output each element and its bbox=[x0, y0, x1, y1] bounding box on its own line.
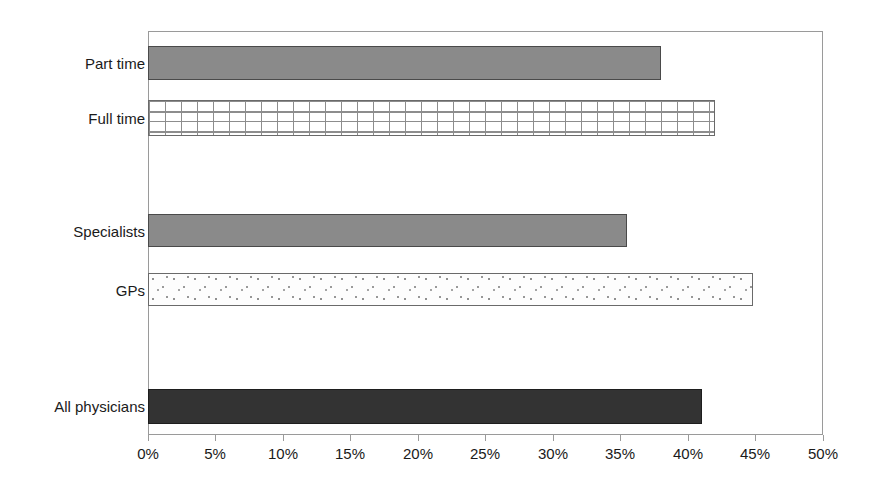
tick-mark-30 bbox=[553, 435, 554, 441]
tick-label-30: 30% bbox=[538, 446, 568, 461]
bar-full-time bbox=[148, 100, 715, 136]
bar-all-physicians bbox=[148, 389, 702, 424]
tick-mark-50 bbox=[823, 435, 824, 441]
tick-label-10: 10% bbox=[268, 446, 298, 461]
tick-label-25: 25% bbox=[470, 446, 500, 461]
tick-mark-35 bbox=[620, 435, 621, 441]
bar-specialists bbox=[148, 214, 627, 247]
tick-mark-10 bbox=[283, 435, 284, 441]
tick-mark-5 bbox=[215, 435, 216, 441]
bar-gps bbox=[148, 273, 753, 306]
category-label-gps: GPs bbox=[116, 283, 145, 298]
tick-mark-45 bbox=[755, 435, 756, 441]
tick-label-45: 45% bbox=[740, 446, 770, 461]
tick-label-5: 5% bbox=[204, 446, 226, 461]
tick-mark-0 bbox=[148, 435, 149, 441]
tick-label-50: 50% bbox=[808, 446, 838, 461]
tick-label-35: 35% bbox=[605, 446, 635, 461]
category-label-all-physicians: All physicians bbox=[54, 399, 145, 414]
tick-mark-15 bbox=[350, 435, 351, 441]
tick-mark-20 bbox=[418, 435, 419, 441]
bar-chart: Part time Full time Specialists GPs All … bbox=[0, 0, 880, 499]
category-label-part-time: Part time bbox=[85, 56, 145, 71]
tick-label-0: 0% bbox=[137, 446, 159, 461]
bar-part-time bbox=[148, 46, 661, 80]
tick-label-15: 15% bbox=[335, 446, 365, 461]
tick-mark-40 bbox=[688, 435, 689, 441]
category-label-full-time: Full time bbox=[88, 111, 145, 126]
tick-mark-25 bbox=[485, 435, 486, 441]
tick-label-40: 40% bbox=[673, 446, 703, 461]
tick-label-20: 20% bbox=[403, 446, 433, 461]
category-label-specialists: Specialists bbox=[73, 224, 145, 239]
